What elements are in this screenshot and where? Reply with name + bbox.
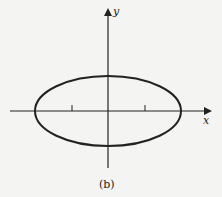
y-axis-label: y bbox=[112, 5, 120, 18]
x-axis-label: x bbox=[203, 114, 210, 127]
ellipse-diagram: x y (b) bbox=[0, 0, 222, 197]
figure-caption: (b) bbox=[99, 178, 115, 191]
